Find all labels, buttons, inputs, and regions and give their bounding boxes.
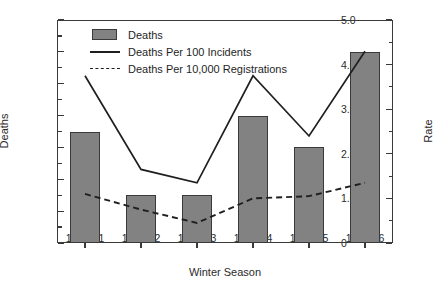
solid-line-icon bbox=[90, 51, 120, 53]
x-axis-title: Winter Season bbox=[189, 266, 261, 278]
filled-square-icon bbox=[92, 29, 117, 40]
legend-label: Deaths Per 100 Incidents bbox=[128, 46, 252, 58]
y-axis-right-title: Rate bbox=[422, 119, 434, 142]
chart-figure: 02468101214 01.02.03.04.05.0 1990-911991… bbox=[0, 0, 436, 288]
legend-label: Deaths bbox=[128, 29, 163, 41]
legend-swatch-icon bbox=[90, 28, 120, 41]
legend-item: Deaths bbox=[90, 26, 287, 43]
chart-legend: DeathsDeaths Per 100 IncidentsDeaths Per… bbox=[90, 26, 287, 77]
legend-solid-line-icon bbox=[90, 45, 120, 58]
y-axis-left-title: Deaths bbox=[0, 114, 10, 149]
legend-label: Deaths Per 10,000 Registrations bbox=[128, 63, 287, 75]
line-deaths-per-10000-registrations bbox=[85, 183, 365, 223]
dashed-line-icon bbox=[90, 68, 120, 69]
legend-item: Deaths Per 100 Incidents bbox=[90, 43, 287, 60]
legend-dashed-line-icon bbox=[90, 62, 120, 75]
plot-area: DeathsDeaths Per 100 IncidentsDeaths Per… bbox=[57, 20, 393, 243]
legend-item: Deaths Per 10,000 Registrations bbox=[90, 60, 287, 77]
